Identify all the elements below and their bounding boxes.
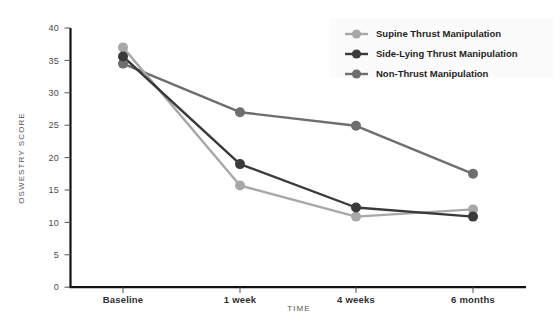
legend-marker-icon	[352, 49, 361, 58]
legend-marker-icon	[352, 29, 361, 38]
legend-item-label: Supine Thrust Manipulation	[376, 28, 501, 39]
x-axis-title: TIME	[287, 304, 311, 313]
legend-marker-icon	[352, 69, 361, 78]
data-point-marker	[468, 212, 478, 222]
chart-container: 0510152025303540 Baseline1 week4 weeks6 …	[0, 0, 560, 321]
x-tick-label: 6 months	[451, 294, 495, 305]
legend-item-label: Non-Thrust Manipulation	[376, 68, 489, 79]
y-tick-label: 10	[49, 218, 59, 228]
series-line	[123, 64, 473, 174]
data-point-marker	[118, 52, 128, 62]
legend-item-label: Side-Lying Thrust Manipulation	[376, 48, 518, 59]
data-point-marker	[118, 42, 128, 52]
x-tick-label: Baseline	[103, 294, 144, 305]
data-point-marker	[468, 169, 478, 179]
y-tick-label: 0	[54, 282, 59, 292]
data-point-marker	[235, 159, 245, 169]
y-tick-label: 30	[49, 88, 59, 98]
data-point-marker	[351, 212, 361, 222]
x-axis-ticks: Baseline1 week4 weeks6 months	[103, 287, 495, 305]
y-tick-label: 25	[49, 120, 59, 130]
data-point-marker	[235, 107, 245, 117]
y-tick-label: 15	[49, 185, 59, 195]
y-tick-label: 5	[54, 250, 59, 260]
y-tick-label: 40	[49, 23, 59, 33]
data-point-marker	[235, 181, 245, 191]
x-tick-label: 1 week	[224, 294, 257, 305]
data-point-marker	[351, 121, 361, 131]
series-line	[123, 57, 473, 217]
x-tick-label: 4 weeks	[337, 294, 375, 305]
y-axis-title: OSWESTRY SCORE	[17, 112, 26, 204]
y-axis-ticks: 0510152025303540	[49, 23, 71, 292]
y-tick-label: 35	[49, 56, 59, 66]
line-chart: 0510152025303540 Baseline1 week4 weeks6 …	[0, 0, 560, 321]
data-point-marker	[351, 203, 361, 213]
y-tick-label: 20	[49, 153, 59, 163]
